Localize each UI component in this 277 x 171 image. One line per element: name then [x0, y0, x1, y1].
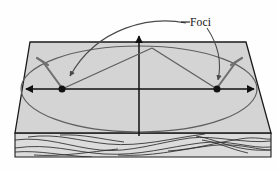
- right-focus-point: [214, 86, 221, 93]
- ellipse-pin-construction-figure: Foci: [0, 0, 277, 171]
- board-top-face-fill: [15, 42, 271, 133]
- left-focus-point: [59, 86, 66, 93]
- foci-label-group: Foci: [181, 16, 211, 28]
- board-front-face: [15, 133, 271, 157]
- foci-label: Foci: [190, 16, 211, 28]
- figure-canvas: Foci: [0, 0, 277, 171]
- board-top-face: [15, 42, 271, 133]
